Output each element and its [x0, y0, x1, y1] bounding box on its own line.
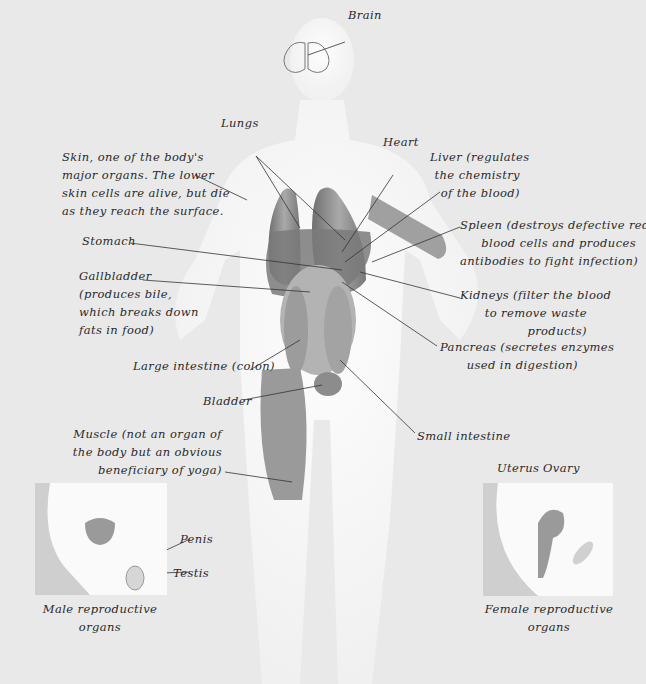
- label-uterus: Uterus: [497, 459, 539, 477]
- intestines-shape: [280, 265, 356, 375]
- label-heart: Heart: [383, 133, 419, 151]
- label-lungs: Lungs: [221, 114, 259, 132]
- label-bladder: Bladder: [203, 392, 252, 410]
- female-reproductive-inset: [483, 483, 613, 596]
- label-large-intestine: Large intestine (colon): [133, 357, 275, 375]
- bladder-shape: [314, 372, 342, 396]
- male-reproductive-inset: [35, 483, 167, 595]
- caption-female-reproductive: Female reproductive organs: [484, 600, 614, 636]
- label-penis: Penis: [180, 530, 213, 548]
- label-spleen: Spleen (destroys defective red blood cel…: [460, 216, 636, 270]
- label-testis: Testis: [173, 564, 209, 582]
- label-skin: Skin, one of the body's major organs. Th…: [62, 148, 230, 220]
- label-pancreas: Pancreas (secretes enzymes used in diges…: [440, 338, 578, 374]
- label-liver: Liver (regulates the chemistry of the bl…: [430, 148, 520, 202]
- label-gallbladder: Gallbladder (produces bile, which breaks…: [79, 267, 199, 339]
- label-kidneys: Kidneys (filter the blood to remove wast…: [460, 286, 587, 340]
- label-small-intestine: Small intestine: [417, 427, 511, 445]
- label-brain: Brain: [348, 6, 382, 24]
- caption-male-reproductive: Male reproductive organs: [40, 600, 160, 636]
- label-muscle: Muscle (not an organ of the body but an …: [60, 425, 222, 479]
- body-diagram: Brain Lungs Heart Liver (regulates the c…: [0, 0, 646, 684]
- label-stomach: Stomach: [82, 232, 136, 250]
- label-ovary: Ovary: [543, 459, 580, 477]
